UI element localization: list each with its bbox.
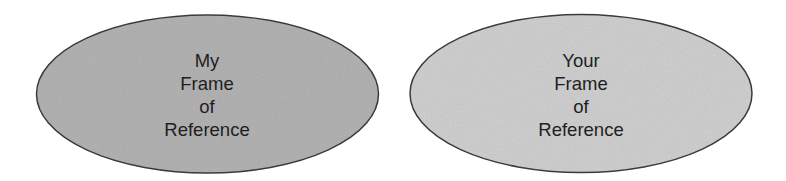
my-frame-label: My Frame of Reference xyxy=(107,49,307,141)
label-line: of xyxy=(107,95,307,118)
label-line: My xyxy=(107,49,307,72)
label-line: Frame xyxy=(481,72,681,95)
label-line: Reference xyxy=(481,118,681,141)
frames-of-reference-diagram: My Frame of Reference Your Frame of Refe… xyxy=(0,0,786,181)
label-line: Reference xyxy=(107,118,307,141)
label-line: of xyxy=(481,95,681,118)
label-line: Your xyxy=(481,49,681,72)
label-line: Frame xyxy=(107,72,307,95)
your-frame-label: Your Frame of Reference xyxy=(481,49,681,141)
